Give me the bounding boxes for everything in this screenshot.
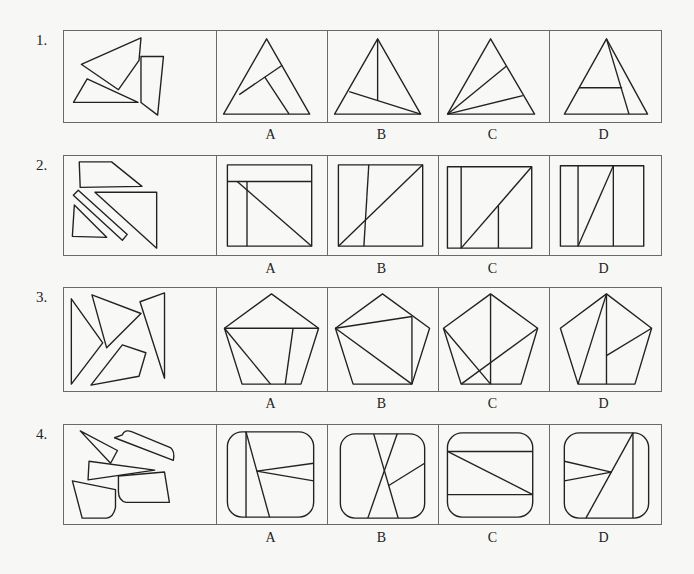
option-b-figure xyxy=(328,425,438,524)
option-label-a: A xyxy=(215,127,326,143)
option-c-figure xyxy=(439,425,549,524)
option-label-a: A xyxy=(215,396,326,412)
option-c-figure xyxy=(439,156,549,255)
option-label-b: B xyxy=(326,530,437,546)
option-c-cell[interactable] xyxy=(438,156,549,255)
question-number: 2. xyxy=(36,157,47,174)
pieces-figure xyxy=(64,31,216,122)
option-a-cell[interactable] xyxy=(216,425,327,524)
option-label-c: C xyxy=(437,127,548,143)
option-c-figure xyxy=(439,288,549,391)
option-b-cell[interactable] xyxy=(327,31,438,122)
option-label-d: D xyxy=(548,530,659,546)
pieces-cell xyxy=(64,425,216,524)
option-label-b: B xyxy=(326,127,437,143)
option-c-cell[interactable] xyxy=(438,425,549,524)
option-b-figure xyxy=(328,156,438,255)
option-label-a: A xyxy=(215,261,326,277)
pieces-cell xyxy=(64,31,216,122)
question-number: 3. xyxy=(36,289,47,306)
option-a-cell[interactable] xyxy=(216,31,327,122)
option-c-cell[interactable] xyxy=(438,31,549,122)
option-b-cell[interactable] xyxy=(327,425,438,524)
option-label-c: C xyxy=(437,261,548,277)
option-d-figure xyxy=(550,288,661,391)
option-d-figure xyxy=(550,31,661,122)
option-label-b: B xyxy=(326,261,437,277)
option-a-figure xyxy=(217,156,327,255)
option-b-cell[interactable] xyxy=(327,156,438,255)
option-a-cell[interactable] xyxy=(216,288,327,391)
option-b-cell[interactable] xyxy=(327,288,438,391)
option-c-figure xyxy=(439,31,549,122)
option-a-figure xyxy=(217,425,327,524)
option-d-figure xyxy=(550,425,661,524)
question-4-row xyxy=(63,424,662,525)
option-label-c: C xyxy=(437,396,548,412)
option-c-cell[interactable] xyxy=(438,288,549,391)
option-a-figure xyxy=(217,31,327,122)
pieces-figure xyxy=(64,425,216,524)
option-label-a: A xyxy=(215,530,326,546)
option-label-d: D xyxy=(548,127,659,143)
option-b-figure xyxy=(328,288,438,391)
pieces-cell xyxy=(64,288,216,391)
option-label-c: C xyxy=(437,530,548,546)
question-1-row xyxy=(63,30,662,123)
option-a-cell[interactable] xyxy=(216,156,327,255)
option-b-figure xyxy=(328,31,438,122)
pieces-figure xyxy=(64,288,216,391)
option-d-cell[interactable] xyxy=(549,156,661,255)
question-3-row xyxy=(63,287,662,392)
option-d-figure xyxy=(550,156,661,255)
option-d-cell[interactable] xyxy=(549,31,661,122)
option-label-d: D xyxy=(548,396,659,412)
question-2-row xyxy=(63,155,662,256)
question-number: 1. xyxy=(36,32,47,49)
option-label-b: B xyxy=(326,396,437,412)
option-a-figure xyxy=(217,288,327,391)
option-d-cell[interactable] xyxy=(549,288,661,391)
pieces-figure xyxy=(64,156,216,255)
option-d-cell[interactable] xyxy=(549,425,661,524)
pieces-cell xyxy=(64,156,216,255)
option-label-d: D xyxy=(548,261,659,277)
question-number: 4. xyxy=(36,426,47,443)
